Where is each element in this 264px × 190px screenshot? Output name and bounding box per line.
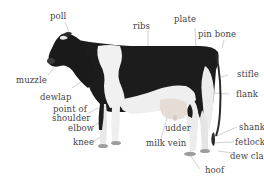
label-dewlap: dewlap: [40, 93, 72, 102]
label-pin-bone: pin bone: [198, 30, 236, 39]
cow-anatomy-diagram: poll ribs plate pin bone muzzle stifle d…: [0, 0, 264, 190]
label-ribs: ribs: [133, 22, 150, 31]
label-shank: shank: [239, 123, 264, 132]
label-milk-vein: milk vein: [146, 139, 186, 148]
label-hoof: hoof: [205, 166, 224, 175]
label-plate: plate: [174, 15, 196, 24]
label-fetlock: fetlock: [235, 138, 264, 147]
label-elbow: elbow: [68, 124, 94, 133]
label-udder: udder: [165, 124, 191, 133]
label-muzzle: muzzle: [16, 76, 47, 85]
label-flank: flank: [236, 90, 258, 99]
label-poll: poll: [50, 12, 66, 21]
label-point-of-shoulder-line2: shoulder: [52, 114, 90, 123]
label-stifle: stifle: [237, 70, 259, 79]
label-knee: knee: [73, 138, 94, 147]
label-dew-claw: dew cla: [230, 152, 264, 161]
